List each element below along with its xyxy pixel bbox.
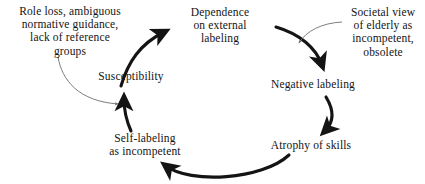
node-self-labeling-line-1: Self-labeling: [88, 132, 202, 145]
node-dependence: Dependence on external labeling: [168, 6, 272, 46]
node-dependence-line-2: on external: [168, 19, 272, 32]
edge-self-labeling-to-susceptibility: [124, 99, 131, 131]
node-self-labeling: Self-labeling as incompetent: [88, 132, 202, 158]
node-susceptibility-line-1: Susceptibility: [74, 70, 188, 83]
annotation-societal-view-line-3: incompetent,: [340, 32, 425, 45]
annotation-societal-view: Societal view of elderly as incompetent,…: [340, 6, 425, 59]
node-dependence-line-1: Dependence: [168, 6, 272, 19]
annotation-role-loss: Role loss, ambiguous normative guidance,…: [2, 5, 138, 58]
node-self-labeling-line-2: as incompetent: [88, 145, 202, 158]
annotation-role-loss-line-1: Role loss, ambiguous: [2, 5, 138, 18]
node-atrophy-of-skills: Atrophy of skills: [248, 139, 374, 152]
node-negative-labeling: Negative labeling: [248, 78, 378, 91]
annotation-role-loss-line-4: groups: [2, 45, 138, 58]
annotation-role-loss-line-2: normative guidance,: [2, 18, 138, 31]
annotation-societal-view-line-4: obsolete: [340, 46, 425, 59]
annotation-societal-view-line-2: of elderly as: [340, 19, 425, 32]
node-susceptibility: Susceptibility: [74, 70, 188, 83]
edge-dependence-to-negative-labeling: [276, 27, 322, 65]
node-negative-labeling-line-1: Negative labeling: [248, 78, 378, 91]
leader-societal-view-to-arrow: [299, 22, 342, 43]
node-dependence-line-3: labeling: [168, 32, 272, 45]
cycle-diagram: Dependence on external labeling Negative…: [0, 0, 425, 184]
annotation-societal-view-line-1: Societal view: [340, 6, 425, 19]
node-atrophy-line-1: Atrophy of skills: [248, 139, 374, 152]
edge-negative-labeling-to-atrophy: [325, 97, 332, 131]
annotation-role-loss-line-3: lack of reference: [2, 31, 138, 44]
